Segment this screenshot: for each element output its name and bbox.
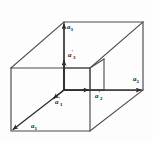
label-a3-base: a (67, 23, 71, 31)
origin-marker (63, 89, 65, 91)
label-a1p-base: a (55, 98, 59, 106)
label-a1-prime: a'1 (55, 99, 63, 106)
label-a1-sub: 1 (35, 126, 38, 131)
outer-cell-edges (11, 22, 143, 131)
label-a1p-sub: 1 (60, 102, 63, 107)
outer-edge-top-left (11, 22, 64, 68)
inner-edge-top-back (90, 59, 104, 68)
label-a2-prime: a'2 (95, 93, 103, 100)
label-a2-sub: 2 (137, 79, 140, 84)
lattice-figure: a3 a'3 a2 a'2 a'1 a1 (0, 0, 153, 142)
label-a3-prime: a'3 (68, 52, 76, 59)
label-a1-base: a (31, 122, 35, 130)
inner-cell-edges (64, 59, 104, 90)
lattice-diagram-svg (0, 0, 153, 142)
label-a2p-base: a (95, 92, 99, 100)
label-a3p-sub: 3 (73, 55, 76, 60)
inner-front-face (64, 68, 90, 90)
outer-edge-top-right (90, 22, 143, 68)
label-a2p-sub: 2 (100, 96, 103, 101)
label-a3p-base: a (68, 51, 72, 59)
label-a2-base: a (133, 75, 137, 83)
label-a3: a3 (67, 24, 73, 31)
label-a2: a2 (133, 76, 139, 83)
label-a1: a1 (31, 123, 37, 130)
label-a3-sub: 3 (71, 27, 74, 32)
